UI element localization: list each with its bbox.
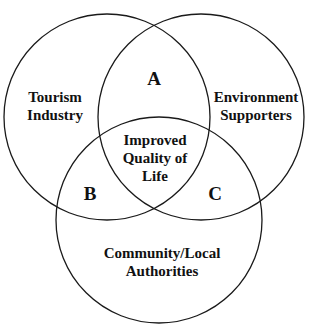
region-label-c: C [208,184,222,204]
region-label-a: A [147,69,161,89]
label-line: Improved [123,131,188,149]
set-label-environment-supporters: Environment Supporters [214,88,299,124]
label-line: Supporters [214,106,299,124]
label-line: Tourism [27,88,83,106]
set-label-tourism-industry: Tourism Industry [27,88,83,124]
label-line: Quality of [123,149,188,167]
label-line: Life [123,167,188,185]
label-line: Community/Local [104,244,221,262]
label-line: Industry [27,106,83,124]
label-line: Authorities [104,262,221,280]
region-label-b: B [84,184,97,204]
set-label-community-local-authorities: Community/Local Authorities [104,244,221,280]
label-line: Environment [214,88,299,106]
center-label-improved-quality-of-life: Improved Quality of Life [123,131,188,185]
